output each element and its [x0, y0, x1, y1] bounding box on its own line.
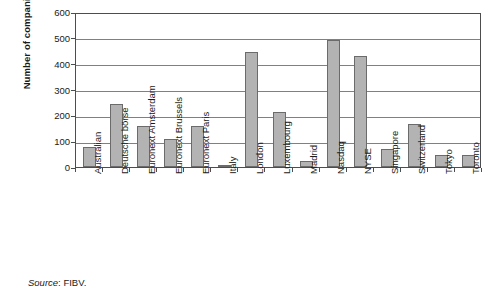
x-tick-label: Deutsche börse: [120, 107, 130, 174]
y-tick-label: 0: [26, 163, 70, 173]
x-tick-label: Nasdaq: [336, 141, 346, 174]
x-tick-label: Euronext Amsterdam: [147, 85, 157, 174]
y-tick-label: 600: [26, 8, 70, 18]
x-tick-label: Euronext Paris: [201, 112, 211, 174]
x-tick-label: Switzerland: [417, 125, 427, 174]
x-tick-mark: [75, 168, 76, 172]
x-tick-label: Australian: [93, 132, 103, 174]
source-text: : FIBV.: [58, 277, 86, 288]
x-tick-label: Toronto: [471, 142, 481, 174]
x-tick-label: Luxembourg: [282, 121, 292, 174]
x-tick-mark: [481, 168, 482, 172]
bar-chart-figure: Number of companies 0100200300400500600 …: [0, 0, 502, 298]
x-tick-label: Euronext Brussels: [174, 97, 184, 174]
x-tick-label: London: [255, 142, 265, 174]
x-tick-label: NYSE: [363, 148, 373, 174]
y-tick-label: 200: [26, 111, 70, 121]
x-tick-label: Madrid: [309, 145, 319, 174]
x-tick-mark: [427, 168, 428, 172]
gridline: [76, 39, 480, 40]
y-tick-label: 500: [26, 34, 70, 44]
x-tick-label: Italy: [228, 157, 238, 174]
x-tick-label: Tokyo: [444, 149, 454, 174]
source-note: Source: FIBV.: [28, 277, 86, 288]
y-tick-label: 100: [26, 137, 70, 147]
y-tick-label: 300: [26, 86, 70, 96]
source-label: Source: [28, 277, 58, 288]
gridline: [76, 65, 480, 66]
gridline: [76, 91, 480, 92]
y-tick-label: 400: [26, 60, 70, 70]
x-tick-label: Singapore: [390, 131, 400, 174]
x-tick-mark: [454, 168, 455, 172]
